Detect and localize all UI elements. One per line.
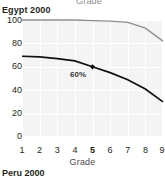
y-axis-tick-label: 80	[12, 39, 22, 48]
y-axis-tick-label: 40	[12, 86, 22, 95]
x-axis-tick-label: 8	[140, 145, 150, 155]
y-axis-tick-label: 20	[12, 109, 22, 118]
plot-area: 60%	[22, 20, 163, 137]
y-axis-tick-label: 60	[12, 62, 22, 71]
y-axis-tick-label: 0	[17, 132, 22, 141]
x-axis-tick-label: 2	[35, 145, 45, 155]
above-panel-caption: Grade	[76, 0, 102, 6]
x-axis-tick-label: 6	[105, 145, 115, 155]
y-axis-tick-label: 100	[7, 16, 22, 25]
series-lines	[22, 20, 163, 137]
series-line-lower	[22, 56, 163, 102]
x-axis: 1 2 3 4 5 6 7 8 9	[22, 145, 163, 157]
series-line-upper	[22, 20, 163, 41]
below-panel-title: Peru 2000	[2, 168, 45, 177]
data-point-marker-diamond	[90, 64, 95, 69]
x-axis-tick-label: 7	[123, 145, 133, 155]
annotation-60-percent: 60%	[70, 70, 86, 79]
x-axis-tick-label: 1	[17, 145, 27, 155]
x-axis-tick-label: 9	[157, 145, 165, 155]
x-axis-title: Grade	[0, 157, 165, 167]
x-axis-tick-label-emphasized: 5	[88, 145, 98, 155]
x-axis-tick-label: 4	[70, 145, 80, 155]
x-axis-tick-label: 3	[52, 145, 62, 155]
line-chart: 60% 100 80 60 40 20 0	[0, 14, 165, 145]
